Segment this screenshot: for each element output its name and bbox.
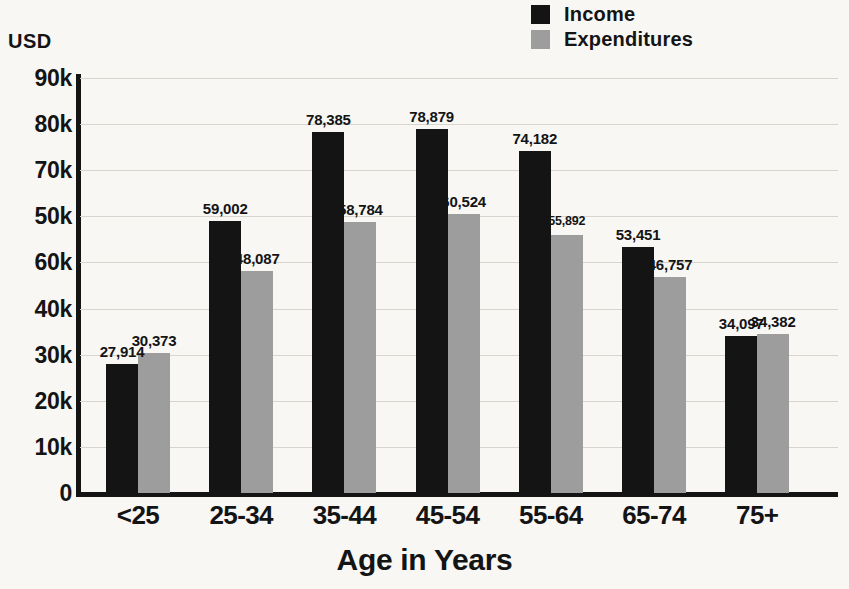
- bar-expenditures: [241, 271, 273, 493]
- bar-income: [622, 247, 654, 493]
- x-axis-title: Age in Years: [0, 543, 849, 577]
- bar-value-label: 60,524: [419, 193, 509, 210]
- x-axis-tick-label: 35-44: [284, 500, 404, 531]
- bar-income: [416, 129, 448, 493]
- bar-value-label: 46,757: [625, 256, 715, 273]
- y-axis-tick-label: 90k: [0, 65, 72, 92]
- x-axis-tick-label: 25-34: [181, 500, 301, 531]
- plot-area: [80, 78, 838, 493]
- bar-value-label: 78,385: [283, 111, 373, 128]
- chart-legend: Income Expenditures: [531, 2, 831, 52]
- y-axis-tick-label: 80k: [0, 111, 72, 138]
- gridline: [80, 78, 838, 79]
- bar-expenditures: [757, 334, 789, 493]
- bar-income: [106, 364, 138, 493]
- bar-income: [519, 151, 551, 493]
- y-axis-tick-label: 70k: [0, 157, 72, 184]
- legend-item-expenditures: Expenditures: [531, 27, 831, 52]
- y-axis-tick-label: 40k: [0, 295, 72, 322]
- bar-expenditures: [344, 222, 376, 493]
- bar-chart: USD Income Expenditures 90k80k70k50k60k4…: [0, 0, 849, 589]
- y-axis-tick-labels: 90k80k70k50k60k40k30k20k10k0: [0, 0, 72, 589]
- bar-value-label: 58,784: [315, 201, 405, 218]
- y-axis-tick-label: 60k: [0, 249, 72, 276]
- bar-income: [725, 336, 757, 493]
- x-axis-tick-label: 75+: [697, 500, 817, 531]
- y-axis-tick-label: 50k: [0, 203, 72, 230]
- bar-income: [312, 132, 344, 493]
- x-axis-tick-label: 45-54: [388, 500, 508, 531]
- y-axis-tick-label: 10k: [0, 433, 72, 460]
- x-axis-tick-label: <25: [78, 500, 198, 531]
- bar-value-label: 78,879: [387, 108, 477, 125]
- legend-swatch-expenditures-icon: [531, 30, 550, 49]
- y-axis-tick-label: 0: [0, 480, 72, 507]
- legend-label-expenditures: Expenditures: [564, 28, 693, 51]
- bar-value-label: 59,002: [180, 200, 270, 217]
- bar-expenditures: [654, 277, 686, 493]
- legend-label-income: Income: [564, 3, 635, 26]
- bar-expenditures: [551, 235, 583, 493]
- y-axis-tick-label: 20k: [0, 387, 72, 414]
- y-axis-tick-label: 30k: [0, 341, 72, 368]
- x-axis-tick-label: 65-74: [594, 500, 714, 531]
- gridline: [80, 170, 838, 171]
- bar-value-label: 30,373: [109, 332, 199, 349]
- bar-value-label: 74,182: [490, 130, 580, 147]
- legend-item-income: Income: [531, 2, 831, 27]
- bar-expenditures: [448, 214, 480, 493]
- bar-value-label: 53,451: [593, 226, 683, 243]
- bar-value-label: 34,382: [728, 313, 818, 330]
- legend-swatch-income-icon: [531, 5, 550, 24]
- x-axis-tick-label: 55-64: [491, 500, 611, 531]
- bar-expenditures: [138, 353, 170, 493]
- bar-value-label: 48,087: [212, 250, 302, 267]
